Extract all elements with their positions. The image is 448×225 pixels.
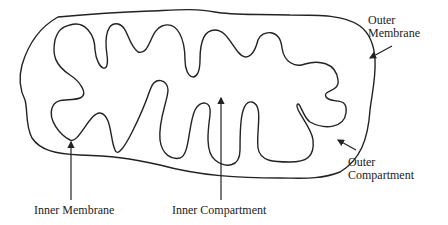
outer-membrane-shape	[20, 10, 375, 179]
inner-compartment-label: Inner Compartment	[172, 204, 266, 217]
outer-membrane-label: Outer Membrane	[368, 14, 420, 40]
outer-membrane-label-line2: Membrane	[368, 27, 420, 40]
outer-compartment-label: Outer Compartment	[348, 156, 414, 182]
inner-membrane-label: Inner Membrane	[34, 204, 114, 217]
inner-membrane-shape	[51, 24, 346, 165]
outer-compartment-label-line2: Compartment	[348, 169, 414, 182]
outer-compartment-arrow	[338, 140, 356, 150]
